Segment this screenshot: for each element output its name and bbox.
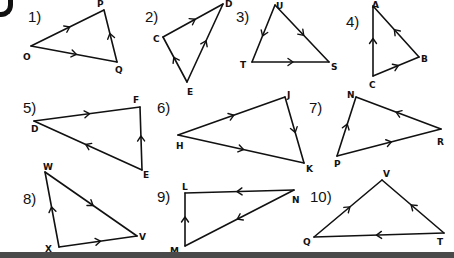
edge-UT bbox=[252, 5, 275, 62]
edge-XW bbox=[45, 172, 59, 247]
vertex-label: Q bbox=[303, 237, 311, 247]
triangle-problem-7: NRP bbox=[334, 90, 444, 169]
edge-BA bbox=[373, 6, 419, 57]
problem-number: 4) bbox=[346, 13, 359, 30]
problem-number: 6) bbox=[157, 99, 170, 116]
vertex-label: A bbox=[372, 0, 379, 10]
vertex-label: P bbox=[334, 159, 341, 169]
triangles-diagram: OPQCDEUTSABCDFEHJKNRPWVXLNMVTQ bbox=[0, 0, 454, 258]
vertex-label: D bbox=[225, 0, 232, 9]
problem-number: 9) bbox=[157, 188, 170, 205]
vertex-label: U bbox=[276, 1, 283, 11]
vertex-label: L bbox=[182, 182, 188, 192]
triangle-worksheet: OPQCDEUTSABCDFEHJKNRPWVXLNMVTQ 1)2)3)4)5… bbox=[0, 0, 454, 258]
edge-NM bbox=[185, 190, 294, 246]
triangle-problem-6: HJK bbox=[176, 90, 314, 174]
bottom-divider bbox=[0, 252, 454, 258]
vertex-label: C bbox=[153, 34, 160, 44]
triangle-problem-8: WVX bbox=[43, 162, 146, 254]
problem-number: 1) bbox=[28, 8, 41, 25]
edge-EC bbox=[163, 37, 187, 82]
problem-number: 5) bbox=[23, 99, 36, 116]
edge-HK bbox=[178, 135, 304, 163]
triangle-problem-4: ABC bbox=[369, 0, 428, 90]
vertex-label: Q bbox=[115, 65, 123, 75]
triangle-problem-10: VTQ bbox=[303, 169, 444, 247]
vertex-label: O bbox=[23, 52, 31, 62]
problem-number: 7) bbox=[309, 99, 322, 116]
triangle-problem-9: LNM bbox=[170, 182, 300, 256]
vertex-label: F bbox=[133, 95, 139, 105]
problem-number: 8) bbox=[23, 190, 36, 207]
edge-HJ bbox=[178, 97, 285, 135]
vertex-label: N bbox=[347, 90, 355, 100]
vertex-label: V bbox=[139, 232, 146, 242]
triangle-problem-2: CDE bbox=[153, 0, 232, 97]
edge-RN bbox=[356, 97, 441, 129]
edge-CD bbox=[163, 4, 223, 37]
vertex-label: E bbox=[143, 170, 149, 180]
edge-OP bbox=[31, 10, 104, 46]
edge-TV bbox=[382, 180, 444, 233]
edge-US bbox=[275, 5, 329, 62]
vertex-label: W bbox=[43, 162, 53, 172]
vertex-label: T bbox=[437, 237, 444, 247]
vertex-label: N bbox=[292, 195, 300, 205]
triangle-problem-3: UTS bbox=[240, 1, 337, 72]
vertex-label: H bbox=[176, 141, 184, 151]
edge-ED bbox=[187, 4, 223, 82]
vertex-label: S bbox=[331, 62, 337, 72]
edge-XV bbox=[59, 236, 137, 247]
edge-OQ bbox=[31, 46, 117, 62]
vertex-label: T bbox=[240, 60, 247, 70]
vertex-label: K bbox=[306, 164, 314, 174]
problem-number: 2) bbox=[145, 8, 158, 25]
vertex-label: J bbox=[286, 90, 290, 100]
problem-number: 3) bbox=[236, 8, 249, 25]
vertex-label: P bbox=[97, 0, 104, 9]
edge-JK bbox=[285, 97, 304, 163]
edge-EF bbox=[140, 107, 142, 170]
vertex-label: R bbox=[437, 137, 444, 147]
edge-DF bbox=[34, 107, 140, 121]
edge-PN bbox=[337, 97, 356, 156]
vertex-label: B bbox=[421, 54, 428, 64]
edge-WV bbox=[45, 172, 137, 236]
vertex-label: V bbox=[383, 169, 390, 179]
edge-PR bbox=[337, 129, 441, 156]
problem-number: 10) bbox=[310, 188, 332, 205]
vertex-label: D bbox=[31, 124, 38, 134]
edge-CB bbox=[373, 57, 419, 76]
vertex-label: E bbox=[187, 87, 193, 97]
vertex-label: C bbox=[369, 80, 376, 90]
edge-QP bbox=[104, 10, 117, 62]
